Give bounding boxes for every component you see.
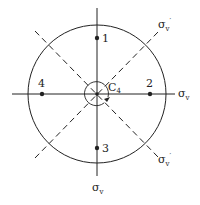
sigma-vprime-top-label: σv′: [158, 17, 171, 33]
c4-label: C4: [108, 81, 121, 95]
point-3-label: 3: [102, 142, 109, 155]
point-4-marker: [40, 92, 44, 96]
sigma-v-bottom-label: σv: [92, 181, 104, 196]
point-1-label: 1: [102, 32, 109, 45]
point-2-marker: [148, 92, 152, 96]
point-2-label: 2: [146, 77, 153, 90]
point-3-marker: [95, 146, 99, 150]
point-4-label: 4: [38, 77, 45, 90]
c4-axis-center: [95, 92, 99, 96]
sigma-v-right-label: σv: [178, 87, 190, 102]
rotation-arrow-icon: [104, 97, 110, 102]
symmetry-diagram: 1 2 3 4 C4 σv σv σv′ σv′: [0, 0, 200, 205]
point-1-marker: [95, 36, 99, 40]
sigma-vprime-bottom-label: σv′: [158, 152, 171, 168]
